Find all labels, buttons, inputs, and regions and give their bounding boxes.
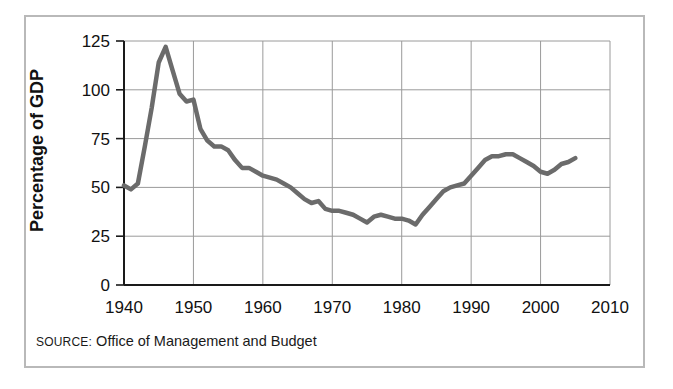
data-line — [124, 47, 575, 225]
y-tick-marks — [116, 41, 124, 285]
y-tick-label: 100 — [82, 81, 110, 100]
x-tick-label: 1970 — [313, 298, 351, 317]
x-tick-label: 1960 — [244, 298, 282, 317]
source-value: Office of Management and Budget — [92, 333, 317, 349]
chart-figure: Percentage of GDP 0255075100125 19401950… — [0, 0, 673, 389]
x-tick-label: 2010 — [591, 298, 629, 317]
x-tick-labels: 19401950196019701980199020002010 — [105, 298, 629, 317]
y-tick-label: 50 — [91, 178, 110, 197]
y-tick-label: 0 — [101, 276, 110, 295]
source-label: SOURCE: — [36, 335, 92, 349]
x-tick-label: 1990 — [452, 298, 490, 317]
x-tick-label: 1940 — [105, 298, 143, 317]
y-tick-label: 25 — [91, 227, 110, 246]
x-tick-label: 2000 — [522, 298, 560, 317]
y-tick-labels: 0255075100125 — [82, 32, 110, 295]
y-gridlines — [124, 41, 610, 236]
source-note: SOURCE: Office of Management and Budget — [36, 333, 317, 349]
axis-lines — [124, 41, 610, 285]
data-series-group — [124, 47, 575, 225]
x-tick-label: 1980 — [383, 298, 421, 317]
debt-to-gdp-line-chart: 0255075100125 19401950196019701980199020… — [0, 0, 673, 389]
y-tick-label: 125 — [82, 32, 110, 51]
x-tick-label: 1950 — [175, 298, 213, 317]
y-tick-label: 75 — [91, 130, 110, 149]
x-gridlines — [124, 41, 610, 285]
